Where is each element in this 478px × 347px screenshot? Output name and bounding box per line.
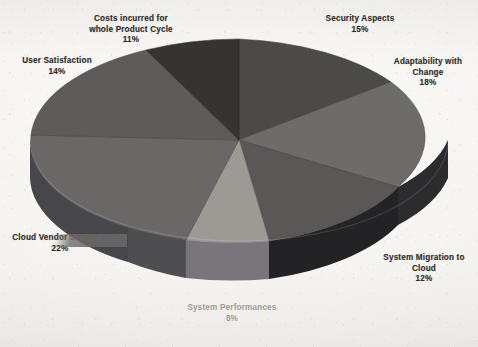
pie-chart: Costs incurred for whole Product Cycle 1… — [0, 0, 478, 347]
label-costs-incurred-line2: whole Product Cycle — [89, 25, 173, 34]
label-cloud-vendor-selection-percent: 22% — [2, 244, 118, 255]
label-adaptability-with-change: Adaptability with Change 18% — [380, 57, 476, 89]
label-system-migration-percent: 12% — [372, 274, 476, 285]
label-adaptability-line2: Change — [412, 68, 443, 77]
label-user-satisfaction-name: User Satisfaction — [22, 56, 92, 65]
label-security-aspects-percent: 15% — [305, 25, 415, 36]
label-costs-incurred: Costs incurred for whole Product Cycle 1… — [72, 14, 190, 46]
side-system-performances — [186, 240, 269, 281]
label-system-migration-to-cloud: System Migration to Cloud 12% — [372, 253, 476, 285]
label-adaptability-percent: 18% — [380, 78, 476, 89]
label-costs-incurred-line1: Costs incurred for — [94, 14, 168, 23]
label-adaptability-line1: Adaptability with — [394, 57, 462, 66]
label-cloud-vendor-selection-name: Cloud Vendor Selection — [12, 233, 108, 242]
label-security-aspects-name: Security Aspects — [326, 14, 395, 23]
label-system-performances: System Performances 8% — [166, 303, 298, 324]
label-system-performances-percent: 8% — [166, 314, 298, 325]
label-user-satisfaction-percent: 14% — [2, 67, 112, 78]
label-system-migration-line1: System Migration to — [383, 253, 464, 262]
label-cloud-vendor-selection: Cloud Vendor Selection 22% — [2, 233, 118, 254]
label-user-satisfaction: User Satisfaction 14% — [2, 56, 112, 77]
label-security-aspects: Security Aspects 15% — [305, 14, 415, 35]
pie-chart-svg — [0, 0, 478, 347]
label-costs-incurred-percent: 11% — [72, 35, 190, 46]
label-system-performances-name: System Performances — [187, 303, 276, 312]
label-system-migration-line2: Cloud — [412, 264, 436, 273]
